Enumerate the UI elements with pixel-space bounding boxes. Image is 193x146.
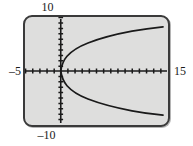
curve-lower-branch <box>61 71 163 115</box>
curve-upper-branch <box>61 27 163 71</box>
window-label-ymax: 10 <box>0 1 144 13</box>
graph-plot-area <box>25 17 168 125</box>
window-label-xmin: –5 <box>2 65 21 77</box>
window-label-xmax: 15 <box>174 65 186 77</box>
window-label-ymin: –10 <box>0 129 143 141</box>
calculator-screen <box>23 15 170 127</box>
calculator-graph-figure: 10 –10 –5 15 <box>0 0 193 146</box>
